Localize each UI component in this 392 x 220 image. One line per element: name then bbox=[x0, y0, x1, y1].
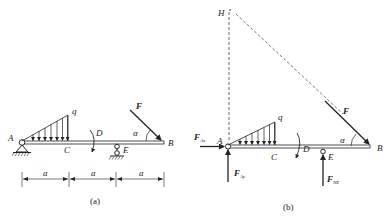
label-a-D: D bbox=[95, 128, 103, 138]
label-b-alpha: α bbox=[340, 135, 345, 145]
label-b-H: H bbox=[217, 8, 225, 18]
label-a-alpha: α bbox=[133, 128, 138, 138]
dim-label-2: a bbox=[91, 168, 96, 178]
label-fax: F bbox=[193, 132, 200, 142]
label-a-F: F bbox=[135, 101, 142, 111]
figure-a: A q C D E F α B a a a (a) bbox=[7, 101, 174, 206]
dashed-line-hb bbox=[236, 14, 343, 114]
label-b-E: E bbox=[327, 152, 334, 162]
beam-a bbox=[22, 141, 164, 144]
label-b-B: B bbox=[377, 143, 383, 153]
angle-arc-a bbox=[146, 130, 150, 141]
distributed-load-a bbox=[22, 115, 68, 141]
label-a-A: A bbox=[7, 133, 14, 143]
angle-arc-b bbox=[351, 134, 356, 146]
label-b-q: q bbox=[278, 112, 283, 122]
label-fay-sub: Ay bbox=[239, 174, 246, 179]
beam-diagram: A q C D E F α B a a a (a) bbox=[0, 0, 392, 220]
pin-e-b bbox=[321, 149, 326, 154]
label-a-q: q bbox=[72, 106, 77, 116]
label-fne: F bbox=[326, 174, 333, 184]
roller-support-e bbox=[109, 144, 124, 159]
dim-label-3: a bbox=[139, 168, 144, 178]
distributed-load-b bbox=[228, 122, 275, 145]
label-a-C: C bbox=[64, 145, 71, 155]
label-fay: F bbox=[233, 168, 240, 178]
label-b-C: C bbox=[271, 152, 278, 162]
figure-b: H A q C D E F α B F Ax F Ay F NE (b) bbox=[193, 8, 383, 212]
label-fne-sub: NE bbox=[332, 180, 339, 185]
label-b-A: A bbox=[216, 136, 223, 146]
label-a-B: B bbox=[168, 138, 174, 148]
label-a-E: E bbox=[122, 145, 129, 155]
label-fax-sub: Ax bbox=[199, 138, 206, 143]
caption-b: (b) bbox=[283, 202, 294, 212]
label-b-D: D bbox=[302, 144, 310, 154]
dim-label-1: a bbox=[43, 168, 48, 178]
label-b-F: F bbox=[342, 106, 349, 116]
caption-a: (a) bbox=[90, 196, 100, 206]
